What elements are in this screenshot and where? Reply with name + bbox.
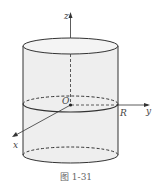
cylinder-diagram: z O R y x 图 1-31 — [0, 0, 159, 192]
z-axis-arrow-icon — [69, 12, 73, 18]
x-axis-arrow-icon — [12, 132, 18, 137]
origin-label: O — [62, 96, 70, 106]
figure-caption: 图 1-31 — [60, 172, 92, 182]
x-axis-label: x — [13, 140, 18, 150]
y-axis-label: y — [145, 106, 152, 116]
radius-label: R — [119, 108, 127, 118]
z-axis-label: z — [63, 11, 69, 21]
top-ellipse — [23, 38, 118, 54]
